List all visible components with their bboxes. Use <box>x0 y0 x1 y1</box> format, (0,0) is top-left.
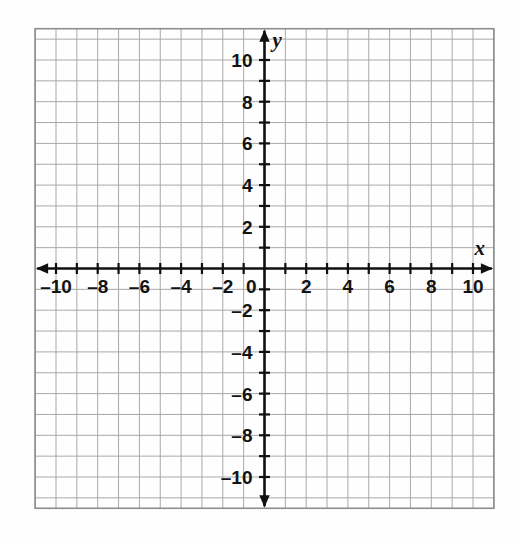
x-axis-label: x <box>474 236 486 260</box>
coordinate-plane-figure: –10–8–6–4–2246810 108642–2–4–6–8–10 0 x … <box>0 0 519 539</box>
y-tick-label: 6 <box>242 133 253 154</box>
x-tick-label: 6 <box>384 276 395 297</box>
x-tick-label: –8 <box>87 276 108 297</box>
x-tick-label: 10 <box>462 276 483 297</box>
y-tick-label: 2 <box>242 217 253 238</box>
y-tick-label: –6 <box>231 384 252 405</box>
x-tick-label: –2 <box>212 276 233 297</box>
x-tick-label: –10 <box>40 276 72 297</box>
x-tick-label: –6 <box>129 276 150 297</box>
x-tick-label: 8 <box>426 276 437 297</box>
y-tick-label: 10 <box>231 50 252 71</box>
x-tick-label: 2 <box>301 276 312 297</box>
y-tick-label: –10 <box>221 467 253 488</box>
y-tick-label: 8 <box>242 92 253 113</box>
y-tick-label: –2 <box>231 300 252 321</box>
x-tick-label: –4 <box>171 276 193 297</box>
origin-label: 0 <box>246 276 257 297</box>
x-tick-label: 4 <box>343 276 354 297</box>
y-tick-label: –8 <box>231 425 252 446</box>
y-tick-label: 4 <box>242 175 253 196</box>
coordinate-grid-svg: –10–8–6–4–2246810 108642–2–4–6–8–10 0 x … <box>0 0 519 539</box>
y-tick-label: –4 <box>231 342 253 363</box>
